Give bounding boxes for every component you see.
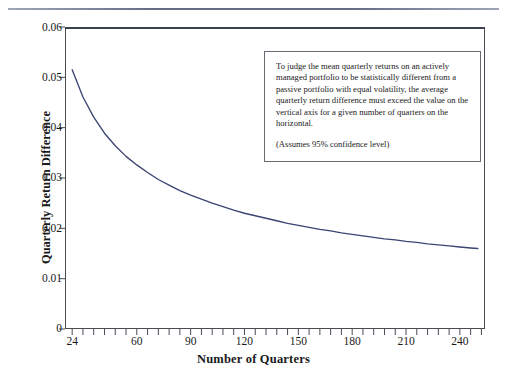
annotation-box: To judge the mean quarterly returns on a… (264, 51, 481, 162)
annotation-paragraph-1: To judge the mean quarterly returns on a… (276, 61, 469, 129)
x-tick-label: 24 (52, 336, 92, 348)
x-axis-title: Number of Quarters (0, 352, 507, 367)
annotation-paragraph-2: (Assumes 95% confidence level) (276, 139, 469, 150)
x-tick-label: 120 (224, 336, 264, 348)
figure-container: 0.06 0.05 0.04 0.03 0.02 0.01 0 Quarterl… (0, 0, 507, 375)
x-tick-label: 60 (117, 336, 157, 348)
x-tick-label: 240 (440, 336, 480, 348)
y-axis-title-holder: Quarterly Return Difference (14, 20, 34, 320)
y-tick-label: 0 (22, 323, 62, 335)
x-tick-label: 180 (332, 336, 372, 348)
x-tick-label: 90 (171, 336, 211, 348)
y-axis-title: Quarterly Return Difference (39, 68, 54, 308)
x-tick-label: 210 (386, 336, 426, 348)
x-tick-label: 150 (278, 336, 318, 348)
